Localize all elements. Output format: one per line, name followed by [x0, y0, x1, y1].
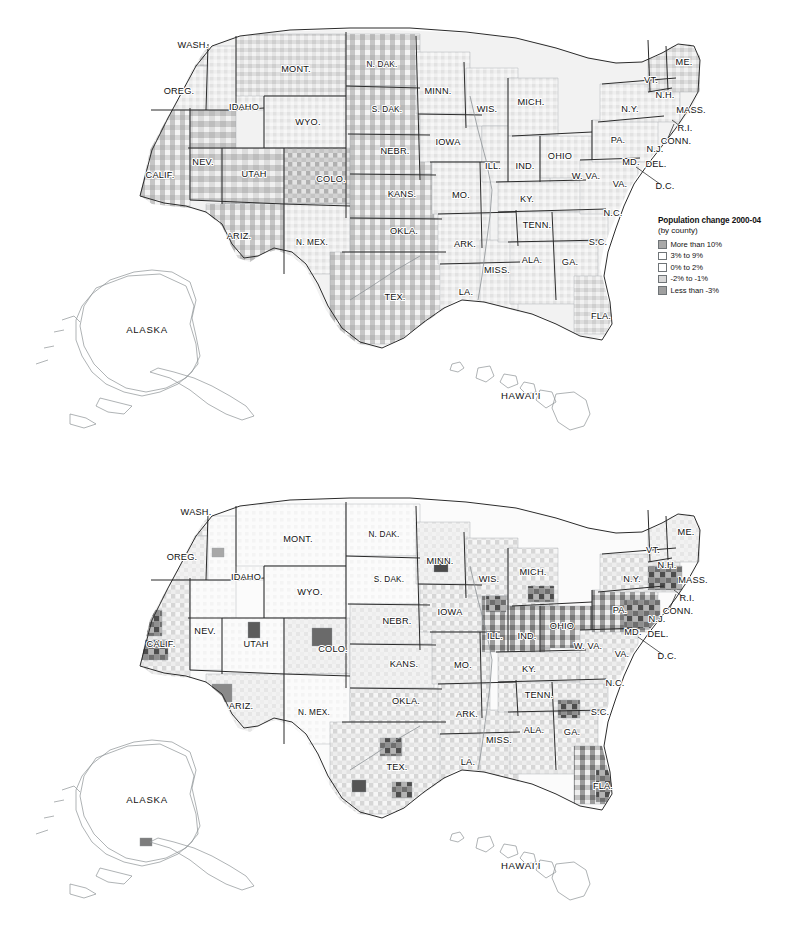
state-label-fla: FLA. [591, 311, 611, 321]
state-label-nj: N.J. [646, 144, 663, 154]
state-label-nev: NEV. [192, 157, 213, 167]
us-population-maps-figure: ALASKA HAWAI'I WASH.OREG.CALIF.IDAHONEV.… [0, 0, 800, 929]
state-label-me: ME. [678, 527, 695, 537]
alaska-inset-change: ALASKA [36, 270, 254, 428]
state-label-va: VA. [615, 649, 630, 659]
state-label-pa: PA. [613, 605, 628, 615]
legend-item: 3% to 9% [658, 250, 794, 262]
state-label-ndak: N. DAK. [367, 60, 398, 69]
legend-swatch [658, 240, 667, 249]
state-label-nmex: N. MEX. [296, 238, 328, 247]
state-label-wash: WASH. [181, 507, 212, 517]
state-label-mass: MASS. [676, 105, 706, 115]
state-label-kans: KANS. [390, 659, 419, 669]
state-label-vt: VT. [646, 545, 660, 555]
state-label-la: LA. [461, 757, 475, 767]
state-label-tex: TEX. [386, 762, 407, 772]
legend-change-title: Population change 2000-04 [658, 216, 794, 226]
state-label-nev: NEV. [194, 626, 215, 636]
state-label-mich: MICH. [519, 567, 546, 577]
state-label-sdak: S. DAK. [372, 105, 403, 114]
state-label-ky: KY. [520, 194, 534, 204]
state-label-del: DEL. [647, 629, 668, 639]
state-label-md: MD. [622, 157, 639, 167]
state-label-idaho: IDAHO [229, 102, 259, 112]
state-label-oreg: OREG. [167, 552, 198, 562]
state-label-ill: ILL. [487, 631, 503, 641]
legend-label: 0% to 2% [671, 264, 704, 272]
state-label-ark: ARK. [456, 709, 478, 719]
state-label-ala: ALA. [522, 255, 543, 265]
alaska-label-bottom: ALASKA [126, 794, 168, 805]
legend-item: Less than -3% [658, 285, 794, 297]
state-label-conn: CONN. [661, 136, 692, 146]
state-label-colo: COLO. [318, 644, 348, 654]
legend-population-change: Population change 2000-04 (by county) Mo… [658, 216, 794, 296]
state-label-ala: ALA. [524, 725, 545, 735]
state-label-miss: MISS. [484, 265, 510, 275]
state-label-conn: CONN. [663, 606, 694, 616]
state-label-ohio: OHIO [550, 621, 574, 631]
hawaii-label-top: HAWAI'I [501, 390, 541, 401]
state-label-tex: TEX. [384, 292, 405, 302]
state-label-sc: S.C. [591, 707, 610, 717]
state-label-calif: CALIF. [147, 639, 176, 649]
legend-swatch [658, 252, 667, 261]
state-label-nh: N.H. [657, 560, 676, 570]
state-label-ind: IND. [515, 161, 534, 171]
alaska-inset-density: ALASKA [36, 740, 254, 898]
state-label-mass: MASS. [678, 575, 708, 585]
hawaii-inset-change: HAWAI'I [450, 362, 590, 430]
state-label-utah: UTAH [241, 169, 266, 179]
state-label-colo: COLO. [316, 174, 346, 184]
state-label-ndak: N. DAK. [369, 530, 400, 539]
state-label-wash: WASH. [178, 40, 209, 50]
state-label-minn: MINN. [424, 86, 451, 96]
state-label-nc: N.C. [605, 678, 624, 688]
state-label-va: VA. [613, 179, 628, 189]
legend-item: More than 10% [658, 239, 794, 251]
state-label-nc: N.C. [603, 208, 622, 218]
state-label-wis: WIS. [479, 574, 500, 584]
state-label-ky: KY. [522, 664, 536, 674]
state-label-ohio: OHIO [548, 151, 572, 161]
state-label-wyo: WYO. [297, 587, 322, 597]
state-label-md: MD. [624, 627, 641, 637]
state-label-me: ME. [676, 57, 693, 67]
alaska-label-top: ALASKA [126, 324, 168, 335]
state-label-tenn: TENN. [523, 220, 552, 230]
state-label-ri: R.I. [677, 123, 692, 133]
state-label-mont: MONT. [283, 534, 313, 544]
state-label-nh: N.H. [655, 90, 674, 100]
state-label-iowa: IOWA [438, 607, 464, 617]
state-label-wyo: WYO. [295, 117, 320, 127]
legend-change-subtitle: (by county) [658, 226, 794, 236]
state-label-iowa: IOWA [436, 137, 462, 147]
state-label-mont: MONT. [281, 64, 311, 74]
state-label-utah: UTAH [243, 639, 268, 649]
state-label-ny: N.Y. [623, 574, 640, 584]
state-label-wis: WIS. [477, 104, 498, 114]
state-label-wva: W. VA. [572, 171, 601, 181]
legend-change-rows: More than 10% 3% to 9% 0% to 2% -2% to -… [658, 239, 794, 297]
legend-label: 3% to 9% [671, 252, 704, 260]
state-label-kans: KANS. [388, 189, 417, 199]
state-label-ri: R.I. [679, 593, 694, 603]
state-label-ariz: ARIZ. [229, 701, 253, 711]
state-label-del: DEL. [645, 159, 666, 169]
state-label-ariz: ARIZ. [227, 231, 251, 241]
state-label-sdak: S. DAK. [374, 575, 405, 584]
legend-swatch [658, 263, 667, 272]
state-label-ind: IND. [517, 631, 536, 641]
state-label-mich: MICH. [517, 97, 544, 107]
state-label-nebr: NEBR. [382, 616, 411, 626]
state-label-nmex: N. MEX. [298, 708, 330, 717]
state-label-ga: GA. [562, 257, 578, 267]
state-label-sc: S.C. [589, 237, 608, 247]
state-label-ill: ILL. [485, 161, 501, 171]
state-label-vt: VT. [644, 75, 658, 85]
legend-item: -2% to -1% [658, 273, 794, 285]
legend-label: Less than -3% [671, 287, 720, 295]
map-panel-population-density: ALASKA HAWAI'I WASH.OREG.CALIF.IDAHONEV.… [0, 462, 800, 929]
legend-item: 0% to 2% [658, 262, 794, 274]
